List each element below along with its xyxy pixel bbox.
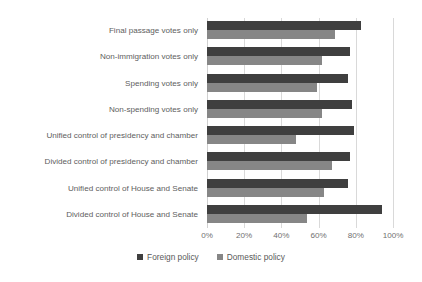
- bar-1: [207, 135, 296, 144]
- category-axis-labels: Final passage votes onlyNon-immigration …: [0, 18, 203, 228]
- category-label: Unified control of House and Senate: [0, 179, 203, 199]
- bar-1: [207, 188, 324, 197]
- bar-1: [207, 30, 335, 39]
- legend-item-1[interactable]: Domestic policy: [217, 252, 285, 262]
- bar-0: [207, 74, 348, 83]
- category-label: Non-spending votes only: [0, 100, 203, 120]
- bar-group: [207, 47, 393, 67]
- category-label: Unified control of presidency and chambe…: [0, 126, 203, 146]
- bar-group: [207, 100, 393, 120]
- legend-swatch-icon: [217, 254, 223, 260]
- bar-1: [207, 109, 322, 118]
- legend-label: Domestic policy: [227, 252, 285, 262]
- category-label: Non-immigration votes only: [0, 47, 203, 67]
- plot-area: [207, 18, 393, 228]
- bar-1: [207, 83, 317, 92]
- x-tick-label: 0%: [201, 231, 213, 240]
- bar-0: [207, 100, 352, 109]
- x-tick-label: 40%: [273, 231, 289, 240]
- chart-legend: Foreign policyDomestic policy: [0, 252, 422, 262]
- category-label: Divided control of presidency and chambe…: [0, 152, 203, 172]
- x-tick-label: 100%: [383, 231, 404, 240]
- category-label: Spending votes only: [0, 74, 203, 94]
- bar-0: [207, 152, 350, 161]
- category-label: Final passage votes only: [0, 21, 203, 41]
- bar-1: [207, 161, 332, 170]
- legend-label: Foreign policy: [147, 252, 199, 262]
- bar-group: [207, 152, 393, 172]
- bar-1: [207, 214, 307, 223]
- x-tick-label: 60%: [310, 231, 326, 240]
- bar-group: [207, 21, 393, 41]
- gridline-100pct: [393, 18, 394, 228]
- bar-group: [207, 205, 393, 225]
- bar-chart: Final passage votes onlyNon-immigration …: [0, 0, 422, 282]
- bar-0: [207, 47, 350, 56]
- bar-0: [207, 205, 382, 214]
- bar-group: [207, 74, 393, 94]
- bar-group: [207, 126, 393, 146]
- bar-group: [207, 179, 393, 199]
- category-label: Divided control of House and Senate: [0, 205, 203, 225]
- x-tick-label: 80%: [348, 231, 364, 240]
- legend-item-0[interactable]: Foreign policy: [137, 252, 199, 262]
- x-tick-label: 20%: [236, 231, 252, 240]
- bar-0: [207, 179, 348, 188]
- value-axis-labels: 0%20%40%60%80%100%: [207, 231, 393, 245]
- bar-0: [207, 21, 361, 30]
- bar-0: [207, 126, 354, 135]
- bar-1: [207, 56, 322, 65]
- bar-rows: [207, 18, 393, 228]
- legend-swatch-icon: [137, 254, 143, 260]
